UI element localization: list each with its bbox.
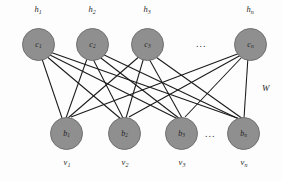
hidden-label-3-sub: 3 [148, 9, 151, 15]
visible-label-1-sub: 1 [67, 162, 70, 168]
visible-label-3-sub: 3 [182, 162, 185, 168]
edge-cn-bn [244, 57, 248, 118]
visible-layer-ellipsis: ... [205, 128, 216, 139]
hidden-label-1: h1 [26, 4, 50, 14]
hidden-node-c2-label: c2 [89, 40, 95, 48]
hidden-label-2-sub: 2 [93, 9, 96, 15]
hidden-node-c1-label: c1 [35, 40, 41, 48]
hidden-node-c3-label: c3 [144, 40, 150, 48]
hidden-label-n-sub: n [251, 9, 254, 15]
hidden-node-c2[interactable]: c2 [76, 28, 109, 61]
visible-node-b1-label: b1 [63, 129, 70, 137]
hidden-label-3: h3 [135, 4, 159, 14]
visible-node-bn-label: bn [240, 129, 247, 137]
hidden-node-cn[interactable]: cn [234, 28, 267, 61]
visible-label-2-sub: 2 [125, 162, 128, 168]
visible-node-b2[interactable]: b2 [108, 117, 141, 150]
edge-c1-b1 [41, 56, 62, 118]
hidden-node-c3[interactable]: c3 [131, 28, 164, 61]
visible-node-b3-label: b3 [178, 129, 185, 137]
visible-label-3: v3 [170, 157, 194, 167]
edge-c3-b3 [148, 57, 182, 118]
edge-c2-b1 [66, 56, 88, 118]
edge-c2-b2 [92, 57, 123, 118]
visible-label-n-sub: n [244, 162, 247, 168]
edge-layer [0, 0, 282, 181]
visible-node-b2-label: b2 [121, 129, 128, 137]
weight-label: W [262, 83, 270, 93]
hidden-label-n-base: h [246, 4, 250, 14]
hidden-label-3-base: h [143, 4, 147, 14]
hidden-layer-ellipsis: ... [196, 38, 207, 49]
visible-label-2: v2 [113, 157, 137, 167]
visible-label-n: vn [232, 157, 256, 167]
rbm-diagram: h1 h2 h3 hn c1 c2 c3 cn ... b1 [0, 0, 282, 181]
edge-c2-bn [100, 53, 241, 120]
edge-cn-b3 [185, 56, 243, 117]
hidden-label-1-sub: 1 [39, 9, 42, 15]
hidden-node-cn-label: cn [247, 40, 253, 48]
visible-node-b1[interactable]: b1 [50, 117, 83, 150]
edge-c1-b3 [46, 53, 178, 119]
visible-label-1: v1 [55, 157, 79, 167]
hidden-label-2-base: h [88, 4, 92, 14]
edge-c3-bn [153, 55, 243, 119]
hidden-label-2: h2 [80, 4, 104, 14]
hidden-node-c1[interactable]: c1 [22, 28, 55, 61]
edge-c3-b1 [68, 55, 141, 118]
visible-node-b3[interactable]: b3 [165, 117, 198, 150]
hidden-label-n: hn [238, 4, 262, 14]
hidden-label-1-base: h [34, 4, 38, 14]
visible-node-bn[interactable]: bn [227, 117, 260, 150]
